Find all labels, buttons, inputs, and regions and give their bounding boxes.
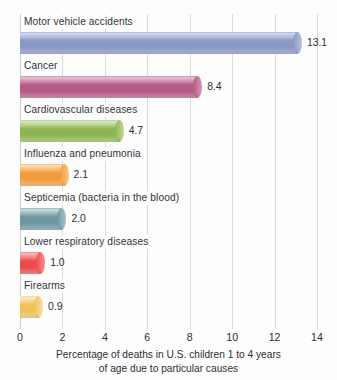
x-tick-label-10: 10 — [226, 331, 238, 343]
bar-end-cap — [36, 252, 45, 274]
bar-category-label: Septicemia (bacteria in the blood) — [23, 191, 181, 205]
bar-value-label: 13.1 — [307, 36, 327, 50]
bar-end-cap — [57, 208, 66, 230]
x-tick-label-2: 2 — [59, 331, 65, 343]
x-tick-label-12: 12 — [269, 331, 281, 343]
bar-end-cap — [193, 76, 202, 98]
x-tick-label-6: 6 — [144, 331, 150, 343]
bar-category-label: Motor vehicle accidents — [23, 15, 135, 29]
bar-body — [20, 120, 120, 142]
bar-body — [20, 208, 62, 230]
bar-end-cap — [293, 32, 302, 54]
gridline-14 — [317, 14, 318, 329]
bar-category-label: Firearms — [23, 279, 67, 293]
bar-category-label: Cardiovascular diseases — [23, 103, 139, 117]
bar-end-cap — [34, 296, 43, 318]
x-tick-label-0: 0 — [17, 331, 23, 343]
bar-value-label: 1.0 — [50, 256, 64, 270]
x-tick-label-8: 8 — [187, 331, 193, 343]
bar — [20, 76, 198, 98]
plot-area: Motor vehicle accidents13.1Cancer8.4Card… — [20, 14, 317, 329]
bar-group: Influenza and pneumonia2.1 — [20, 146, 317, 190]
bar-value-label: 8.4 — [207, 80, 221, 94]
bar — [20, 120, 120, 142]
bar-body — [20, 76, 198, 98]
x-tick-label-14: 14 — [311, 331, 323, 343]
bar-category-label: Lower respiratory diseases — [23, 235, 150, 249]
x-tick-label-4: 4 — [102, 331, 108, 343]
bar-group: Cardiovascular diseases4.7 — [20, 102, 317, 146]
bar-group: Lower respiratory diseases1.0 — [20, 234, 317, 278]
bar-end-cap — [115, 120, 124, 142]
bar-value-label: 0.9 — [48, 300, 62, 314]
bar-value-label: 2.1 — [74, 168, 88, 182]
bar-group: Motor vehicle accidents13.1 — [20, 14, 317, 58]
bar-chart: Motor vehicle accidents13.1Cancer8.4Card… — [0, 0, 337, 380]
bar — [20, 164, 65, 186]
bar-value-label: 2.0 — [71, 212, 85, 226]
bar-category-label: Cancer — [23, 59, 59, 73]
bar-end-cap — [60, 164, 69, 186]
bar — [20, 32, 298, 54]
x-axis-title-line2: of age due to particular causes — [8, 362, 329, 376]
x-axis: 02468101214 — [20, 329, 317, 349]
x-axis-title-line1: Percentage of deaths in U.S. children 1 … — [56, 349, 281, 360]
bar-body — [20, 164, 65, 186]
bar-group: Cancer8.4 — [20, 58, 317, 102]
bar — [20, 252, 41, 274]
bar-group: Septicemia (bacteria in the blood)2.0 — [20, 190, 317, 234]
bar-body — [20, 32, 298, 54]
x-axis-title: Percentage of deaths in U.S. children 1 … — [0, 348, 337, 376]
bar-category-label: Influenza and pneumonia — [23, 147, 143, 161]
bar-value-label: 4.7 — [129, 124, 143, 138]
bar — [20, 208, 62, 230]
bar — [20, 296, 39, 318]
bar-group: Firearms0.9 — [20, 278, 317, 322]
